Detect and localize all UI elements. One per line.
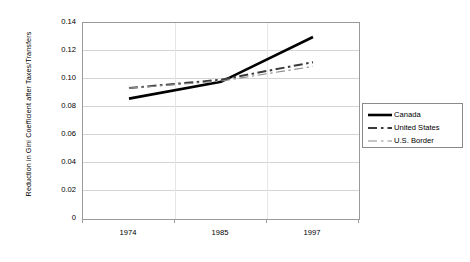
series-line-canada [129, 37, 313, 99]
y-axis-tick-labels: 0.14 0.12 0.10 0.08 0.06 0.04 0.02 0 [40, 0, 76, 262]
y-tick-label: 0.10 [40, 74, 76, 82]
legend-label: U.S. Border [393, 135, 434, 147]
x-tickmark [358, 219, 359, 223]
legend-label: Canada [393, 109, 421, 121]
y-tick-label: 0 [40, 214, 76, 222]
x-tickmark [266, 219, 267, 223]
legend-item-us-border: U.S. Border [363, 134, 462, 147]
legend-swatch-solid-icon [367, 109, 393, 121]
x-tick-label-1985: 1985 [190, 228, 250, 237]
legend-label: United States [393, 122, 440, 134]
x-tickmark [174, 219, 175, 223]
y-tick-label: 0.12 [40, 46, 76, 54]
y-tick-label: 0.04 [40, 158, 76, 166]
series-lines [83, 23, 359, 219]
series-line-us-border [129, 66, 313, 88]
x-tick-label-1974: 1974 [98, 228, 158, 237]
legend-item-canada: Canada [363, 108, 462, 121]
legend: Canada United States U.S. Border [362, 103, 463, 148]
x-tick-label-1997: 1997 [282, 228, 342, 237]
y-tick-label: 0.08 [40, 102, 76, 110]
legend-swatch-thin-dashdot-icon [367, 135, 393, 147]
series-line-united-states [129, 62, 313, 88]
line-chart: Reduction in Gini Coefficient after Taxe… [0, 0, 470, 262]
y-axis-title: Reduction in Gini Coefficient after Taxe… [22, 14, 36, 214]
legend-swatch-dashdot-icon [367, 122, 393, 134]
legend-item-united-states: United States [363, 121, 462, 134]
plot-area [82, 22, 360, 220]
y-tick-label: 0.06 [40, 130, 76, 138]
y-tick-label: 0.14 [40, 18, 76, 26]
y-tick-label: 0.02 [40, 186, 76, 194]
x-tickmark [82, 219, 83, 223]
